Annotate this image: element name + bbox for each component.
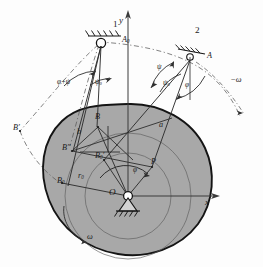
arrow-omega-minus: [237, 110, 244, 115]
cam-mechanism-figure: y x O 1 2 A0 A φ+ψ ψ0 ψ ψ0 φ φ B B′ B″ B…: [0, 0, 263, 267]
cam-outline-shape: [43, 104, 212, 255]
point-dot-P: [151, 166, 153, 168]
omega-minus-arc: [196, 62, 244, 114]
point-dot-Bprime: [19, 130, 21, 132]
pivot-a-hatching: [176, 45, 201, 54]
pivot-a-ground-line: [178, 49, 205, 54]
point-dot-B0prime: [103, 159, 105, 161]
angle-arrowheads-right: [151, 61, 243, 115]
arrow-psi: [169, 61, 174, 69]
point-dot-B: [97, 126, 99, 128]
point-dot-Bdp: [71, 150, 73, 152]
right-omega-dashed: [196, 62, 244, 114]
pivot-a0-hatching: [86, 31, 120, 37]
point-dot-B0: [61, 182, 63, 184]
angle-arcs-left: [64, 71, 110, 86]
pivot-a0-group: [86, 31, 122, 48]
diagram-canvas: [0, 0, 263, 267]
cam-disc-group: [43, 104, 212, 255]
arrow-psi0-left: [105, 78, 112, 83]
